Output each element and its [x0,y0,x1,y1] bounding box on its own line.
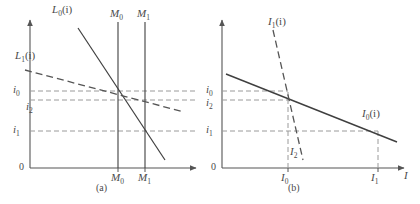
panel-b-ytick-label-i1: i1 [206,124,213,138]
panel-a-curve-label-L1: L1(i) [15,50,35,64]
panel-a-top-label-M0: M0 [110,8,123,22]
panel-a-top-label-M1: M1 [137,8,150,22]
panel-a-curve-L0 [78,28,165,160]
panel-a-xtick-label-M0: M0 [111,172,124,186]
panel-a-origin-label: 0 [19,161,24,172]
panel-a-xtick-label-M1: M1 [138,172,151,186]
panel-a-caption: (a) [96,182,107,193]
panel-a-axes [30,20,196,168]
panel-b-curve-label-I0: I0(i) [362,108,380,122]
panel-a-ytick-label-i2: i2 [26,101,33,115]
figure-canvas: L0(i) L1(i) M0 M1 i0 i2 i1 M0 M1 0 (a) I… [0,0,420,204]
panel-a-ytick-label-i0: i0 [13,84,20,98]
panel-b-curves [226,30,397,160]
panel-a-guidelines [30,91,196,131]
panel-b-curve-label-I1: I1(i) [268,16,286,30]
panel-b-caption: (b) [288,182,300,193]
panel-b-ytick-label-i2: i2 [206,97,213,111]
panel-a-curve-label-L0: L0(i) [52,4,72,18]
panel-b-origin-label: 0 [211,161,216,172]
panel-b-guidelines [222,91,378,168]
panel-a-curves [25,28,184,160]
panel-b-xtick-label-I1: I1 [371,172,378,186]
panel-b-x-ticks [288,168,378,172]
panel-b-x-axis-label: I [404,170,408,181]
panel-b-label-I2: I2 [290,146,297,160]
panel-a-ytick-label-i1: i1 [13,124,20,138]
panel-b-axes [222,20,404,168]
